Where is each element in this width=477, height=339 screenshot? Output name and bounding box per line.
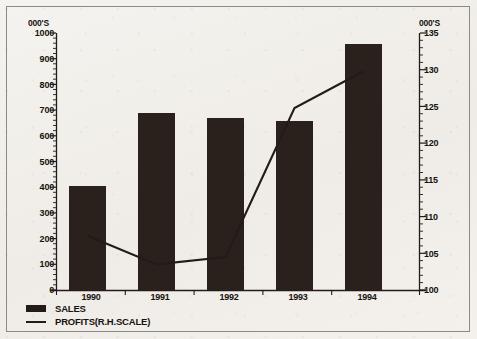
- bar-1992: [207, 118, 244, 290]
- sales-bar-series: [69, 44, 382, 290]
- right-axis-ticks: [420, 33, 426, 290]
- legend-item-sales: SALES: [26, 302, 150, 315]
- left-axis-ticks: [50, 33, 56, 290]
- bar-1990: [69, 186, 106, 290]
- bar-1993: [276, 121, 313, 290]
- legend-line-swatch-icon: [26, 321, 46, 323]
- bar-1994: [345, 44, 382, 290]
- legend-bar-swatch-icon: [26, 305, 46, 312]
- plot-area: [0, 0, 477, 339]
- legend-label-sales: SALES: [55, 303, 86, 314]
- legend-label-profits: PROFITS(R.H.SCALE): [55, 316, 150, 327]
- chart-page: 000'S 000'S 1000 900 800 700 600 500 400…: [0, 0, 477, 339]
- legend-item-profits: PROFITS(R.H.SCALE): [26, 315, 150, 328]
- chart-legend: SALES PROFITS(R.H.SCALE): [26, 302, 150, 328]
